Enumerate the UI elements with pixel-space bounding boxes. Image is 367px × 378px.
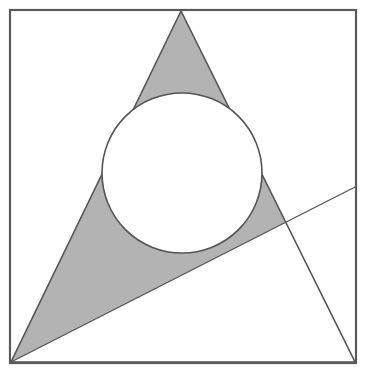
figure-svg xyxy=(0,0,367,378)
geometric-figure-canvas xyxy=(0,0,367,378)
inscribed-circle-outline xyxy=(102,93,262,253)
